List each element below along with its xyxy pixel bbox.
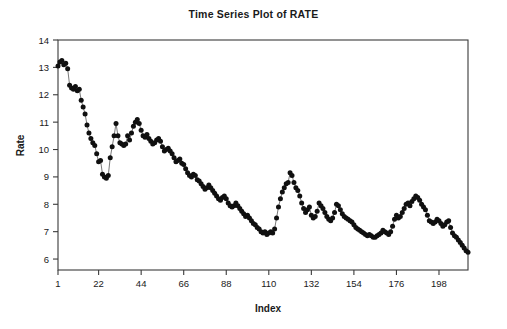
svg-text:198: 198 [431, 278, 447, 289]
svg-text:7: 7 [44, 226, 49, 237]
svg-text:11: 11 [39, 117, 49, 128]
svg-text:12: 12 [38, 89, 49, 100]
svg-text:8: 8 [44, 199, 49, 210]
svg-text:13: 13 [38, 62, 49, 73]
svg-text:10: 10 [38, 144, 49, 155]
svg-text:176: 176 [389, 278, 405, 289]
svg-text:154: 154 [346, 278, 362, 289]
x-axis-ticks: 122446688110132154176198 [55, 270, 447, 289]
svg-text:6: 6 [44, 254, 49, 265]
svg-text:14: 14 [38, 35, 49, 46]
svg-text:88: 88 [221, 278, 232, 289]
svg-text:9: 9 [44, 171, 49, 182]
y-axis-ticks: 67891011121314 [38, 35, 58, 265]
plot-area: 67891011121314 122446688110132154176198 [0, 0, 507, 329]
svg-text:22: 22 [93, 278, 104, 289]
svg-text:44: 44 [136, 278, 147, 289]
svg-text:132: 132 [303, 278, 319, 289]
chart-figure: Time Series Plot of RATE Rate Index 6789… [0, 0, 507, 329]
svg-text:110: 110 [261, 278, 276, 289]
svg-text:66: 66 [178, 278, 189, 289]
svg-text:1: 1 [55, 278, 60, 289]
